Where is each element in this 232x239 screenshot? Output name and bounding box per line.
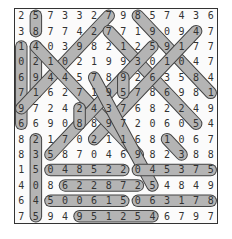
grid-cell[interactable]: 3 <box>101 101 116 116</box>
grid-cell[interactable]: 7 <box>116 178 131 193</box>
grid-cell[interactable]: 3 <box>174 147 189 162</box>
grid-cell[interactable]: 3 <box>72 8 87 23</box>
grid-cell[interactable]: 0 <box>58 116 73 131</box>
grid-cell[interactable]: 9 <box>203 178 218 193</box>
grid-cell[interactable]: 7 <box>116 23 131 38</box>
grid-cell[interactable]: 0 <box>145 116 160 131</box>
grid-cell[interactable]: 6 <box>43 85 58 100</box>
grid-cell[interactable]: 7 <box>43 8 58 23</box>
grid-cell[interactable]: 5 <box>160 162 175 177</box>
grid-cell[interactable]: 0 <box>43 162 58 177</box>
grid-cell[interactable]: 9 <box>29 70 44 85</box>
grid-cell[interactable]: 4 <box>101 147 116 162</box>
grid-cell[interactable]: 2 <box>29 131 44 146</box>
grid-cell[interactable]: 5 <box>87 209 102 224</box>
grid-cell[interactable]: 8 <box>145 147 160 162</box>
grid-cell[interactable]: 3 <box>174 162 189 177</box>
grid-cell[interactable]: 7 <box>72 147 87 162</box>
grid-cell[interactable]: 8 <box>101 70 116 85</box>
grid-cell[interactable]: 9 <box>43 209 58 224</box>
grid-cell[interactable]: 1 <box>87 54 102 69</box>
grid-cell[interactable]: 3 <box>160 193 175 208</box>
grid-cell[interactable]: 2 <box>101 39 116 54</box>
grid-cell[interactable]: 8 <box>145 131 160 146</box>
grid-cell[interactable]: 4 <box>87 101 102 116</box>
grid-cell[interactable]: 4 <box>189 101 204 116</box>
grid-cell[interactable]: 4 <box>160 178 175 193</box>
grid-cell[interactable]: 7 <box>203 209 218 224</box>
grid-cell[interactable]: 1 <box>160 131 175 146</box>
grid-cell[interactable]: 7 <box>58 23 73 38</box>
grid-cell[interactable]: 7 <box>29 101 44 116</box>
grid-cell[interactable]: 1 <box>203 85 218 100</box>
grid-cell[interactable]: 7 <box>116 101 131 116</box>
grid-cell[interactable]: 2 <box>43 101 58 116</box>
grid-cell[interactable]: 0 <box>145 54 160 69</box>
grid-cell[interactable]: 2 <box>72 178 87 193</box>
grid-cell[interactable]: 6 <box>14 116 29 131</box>
grid-cell[interactable]: 1 <box>174 193 189 208</box>
grid-cell[interactable]: 5 <box>72 70 87 85</box>
grid-cell[interactable]: 2 <box>72 54 87 69</box>
grid-cell[interactable]: 9 <box>174 23 189 38</box>
grid-cell[interactable]: 6 <box>14 70 29 85</box>
grid-cell[interactable]: 7 <box>160 8 175 23</box>
grid-cell[interactable]: 2 <box>87 178 102 193</box>
grid-cell[interactable]: 1 <box>131 23 146 38</box>
grid-cell[interactable]: 3 <box>131 54 146 69</box>
grid-cell[interactable]: 1 <box>160 54 175 69</box>
grid-cell[interactable]: 8 <box>189 147 204 162</box>
grid-cell[interactable]: 7 <box>72 85 87 100</box>
grid-cell[interactable]: 7 <box>14 85 29 100</box>
grid-cell[interactable]: 7 <box>203 23 218 38</box>
grid-cell[interactable]: 1 <box>14 162 29 177</box>
grid-cell[interactable]: 6 <box>160 209 175 224</box>
grid-cell[interactable]: 4 <box>29 39 44 54</box>
grid-cell[interactable]: 9 <box>131 147 146 162</box>
grid-cell[interactable]: 6 <box>145 193 160 208</box>
grid-cell[interactable]: 6 <box>189 131 204 146</box>
grid-cell[interactable]: 9 <box>14 101 29 116</box>
grid-cell[interactable]: 8 <box>203 193 218 208</box>
grid-cell[interactable]: 4 <box>72 23 87 38</box>
grid-cell[interactable]: 7 <box>203 54 218 69</box>
grid-cell[interactable]: 7 <box>174 209 189 224</box>
grid-cell[interactable]: 4 <box>189 178 204 193</box>
grid-cell[interactable]: 9 <box>145 23 160 38</box>
grid-cell[interactable]: 3 <box>29 147 44 162</box>
grid-cell[interactable]: 8 <box>87 39 102 54</box>
grid-cell[interactable]: 0 <box>58 54 73 69</box>
grid-cell[interactable]: 2 <box>72 101 87 116</box>
grid-cell[interactable]: 2 <box>131 178 146 193</box>
grid-cell[interactable]: 5 <box>29 209 44 224</box>
grid-cell[interactable]: 7 <box>203 39 218 54</box>
grid-cell[interactable]: 2 <box>131 116 146 131</box>
grid-cell[interactable]: 0 <box>160 23 175 38</box>
grid-cell[interactable]: 1 <box>101 193 116 208</box>
grid-cell[interactable]: 4 <box>189 23 204 38</box>
grid-cell[interactable]: 4 <box>189 54 204 69</box>
grid-cell[interactable]: 6 <box>116 147 131 162</box>
grid-cell[interactable]: 7 <box>131 85 146 100</box>
grid-cell[interactable]: 9 <box>72 209 87 224</box>
grid-cell[interactable]: 5 <box>29 8 44 23</box>
grid-cell[interactable]: 0 <box>14 54 29 69</box>
grid-cell[interactable]: 8 <box>174 178 189 193</box>
grid-cell[interactable]: 0 <box>72 193 87 208</box>
grid-cell[interactable]: 2 <box>87 8 102 23</box>
grid-cell[interactable]: 8 <box>14 131 29 146</box>
grid-cell[interactable]: 0 <box>174 54 189 69</box>
grid-cell[interactable]: 1 <box>14 39 29 54</box>
grid-cell[interactable]: 8 <box>43 178 58 193</box>
grid-cell[interactable]: 2 <box>87 131 102 146</box>
grid-cell[interactable]: 2 <box>101 162 116 177</box>
grid-cell[interactable]: 5 <box>131 209 146 224</box>
grid-cell[interactable]: 5 <box>145 39 160 54</box>
grid-cell[interactable]: 1 <box>87 85 102 100</box>
grid-cell[interactable]: 0 <box>87 147 102 162</box>
grid-cell[interactable]: 2 <box>29 54 44 69</box>
grid-cell[interactable]: 6 <box>131 131 146 146</box>
grid-cell[interactable]: 2 <box>14 8 29 23</box>
grid-cell[interactable]: 6 <box>160 116 175 131</box>
grid-cell[interactable]: 0 <box>29 178 44 193</box>
